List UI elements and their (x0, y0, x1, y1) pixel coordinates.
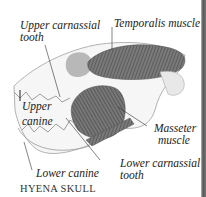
diagram-title: HYENA SKULL (20, 183, 96, 194)
label-lower-canine: Lower canine (36, 167, 99, 179)
page-edge (201, 0, 206, 197)
label-lower-carnassial-tooth: Lower carnassial tooth (120, 157, 200, 181)
label-upper-canine: Upper canine (22, 100, 53, 127)
label-temporalis-muscle: Temporalis muscle (114, 17, 200, 29)
label-upper-carnassial-tooth: Upper carnassial tooth (20, 19, 100, 43)
label-masseter-muscle: Masseter muscle (154, 122, 196, 146)
hyena-skull-diagram: Upper carnassial tooth Temporalis muscle… (0, 0, 206, 197)
